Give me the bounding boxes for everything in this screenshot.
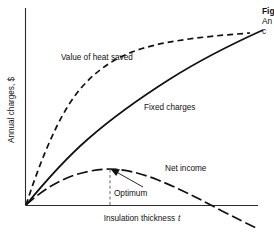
x-axis-label-text: Insulation thickness [104, 214, 175, 223]
figure-caption-line-3: c [262, 26, 274, 36]
curve-label-value-of-heat-saved: Value of heat saved [61, 53, 133, 62]
curve-value-of-heat-saved [26, 33, 250, 205]
curve-label-net-income: Net income [165, 164, 207, 173]
figure-caption-line-2: An [262, 16, 274, 26]
curve-label-fixed-charges: Fixed charges [144, 103, 195, 112]
x-axis-label: Insulation thicknesst [104, 214, 181, 223]
x-axis-label-variable: t [178, 214, 181, 223]
figure-caption: Figure An c [262, 6, 274, 36]
figure-caption-line-1: Figure [262, 6, 274, 16]
optimum-arrowhead-icon [111, 169, 121, 176]
figure-container: Value of heat saved Fixed charges Net in… [0, 0, 274, 234]
annotation-label-optimum: Optimum [114, 189, 147, 198]
y-axis-label: Annual charges, $ [7, 77, 16, 143]
insulation-thickness-chart: Value of heat saved Fixed charges Net in… [0, 0, 274, 234]
